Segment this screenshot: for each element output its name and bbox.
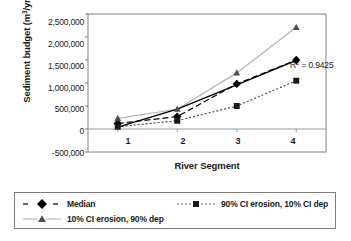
legend-item-10ci-erosion-90-dep[interactable]: 10% CI erosion, 90% dep: [21, 213, 164, 225]
legend-label: 90% CI erosion, 10% CI dep: [221, 199, 328, 210]
plot-container: Sediment budget (m3/yr) 2,500,000 2,000,…: [0, 0, 351, 184]
r-squared-text: R2 = 0.9425: [290, 60, 334, 70]
r-squared-annotation: R2 = 0.9425: [290, 60, 334, 70]
chart-figure: Sediment budget (m3/yr) 2,500,000 2,000,…: [0, 0, 351, 241]
x-tick-label: 2: [171, 136, 195, 146]
x-tick-label: 4: [281, 136, 305, 146]
legend-label: Median: [67, 199, 95, 210]
legend-item-median[interactable]: Median: [21, 198, 95, 210]
x-axis-title: River Segment: [88, 160, 326, 171]
x-tick-label: 1: [116, 136, 140, 146]
plot-svg: [0, 0, 351, 184]
triangle-marker-icon: [21, 213, 63, 225]
x-tick-label: 3: [226, 136, 250, 146]
legend-item-90ci-erosion-10ci-dep[interactable]: 90% CI erosion, 10% CI dep: [175, 198, 328, 210]
square-marker-icon: [175, 198, 217, 210]
legend-label: 10% CI erosion, 90% dep: [67, 214, 164, 225]
chart-legend: Median 90% CI erosion, 10% CI dep 10: [14, 192, 336, 229]
diamond-marker-icon: [21, 198, 63, 210]
